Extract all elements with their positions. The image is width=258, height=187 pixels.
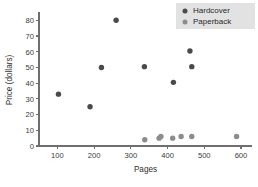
data-point-paperback [178,134,183,139]
x-tick-label: 600 [235,151,248,160]
y-tick-label: 40 [26,79,34,88]
x-tick-label: 300 [124,151,137,160]
legend: HardcoverPaperback [176,3,255,29]
x-tick-label: 100 [51,151,64,160]
x-axis-ticks: 100200300400500600 [51,146,247,160]
x-tick-label: 500 [198,151,211,160]
y-tick-label: 70 [26,32,34,41]
data-point-paperback [234,134,239,139]
y-tick-label: 60 [26,48,34,57]
data-point-paperback [158,134,163,139]
data-point-hardcover [99,65,104,70]
data-point-hardcover [187,48,192,53]
plot-svg: 01020304050607080 100200300400500600 Pag… [0,0,258,187]
data-point-hardcover [171,80,176,85]
y-axis-ticks: 01020304050607080 [26,16,39,151]
y-axis-title: Price (dollars) [5,54,14,105]
data-point-hardcover [142,64,147,69]
y-tick-label: 50 [26,63,34,72]
data-point-hardcover [87,104,92,109]
x-axis-title: Pages [134,165,157,174]
data-point-hardcover [189,64,194,69]
x-tick-label: 200 [88,151,101,160]
legend-marker-hardcover [183,9,188,14]
y-tick-label: 10 [26,126,34,135]
y-tick-label: 0 [30,142,34,151]
y-tick-label: 20 [26,110,34,119]
data-point-hardcover [56,91,61,96]
legend-label-hardcover: Hardcover [193,6,230,15]
data-point-paperback [170,135,175,140]
data-point-paperback [142,137,147,142]
legend-label-paperback: Paperback [193,17,232,26]
data-point-paperback [189,134,194,139]
data-points-layer [56,18,240,143]
scatter-chart: 01020304050607080 100200300400500600 Pag… [0,0,258,187]
y-tick-label: 30 [26,95,34,104]
data-point-hardcover [113,18,118,23]
x-tick-label: 400 [161,151,174,160]
legend-marker-paperback [183,20,188,25]
y-tick-label: 80 [26,16,34,25]
